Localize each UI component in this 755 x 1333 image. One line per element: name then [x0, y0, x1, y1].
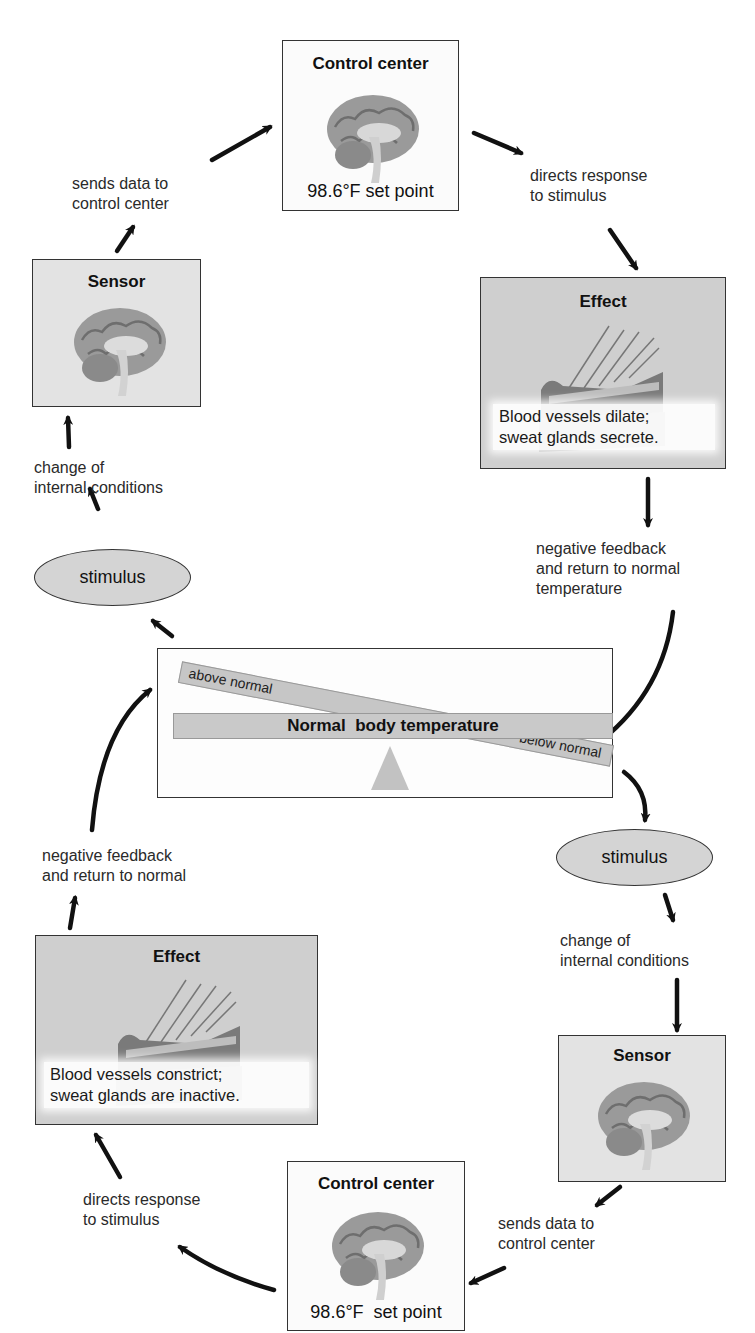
arrow-sensor-to-sends-lower — [597, 1187, 620, 1205]
control-center-box-lower: Control center 98.6°F set point — [287, 1161, 465, 1331]
arrow-effect-to-feedback-lower — [70, 898, 75, 928]
stimulus-ellipse-lower: stimulus — [556, 829, 713, 886]
effect-description-upper: Blood vessels dilate; sweat glands secre… — [493, 404, 715, 450]
sends-caption-upper: sends data to control center — [72, 174, 169, 214]
sensor-box-lower: Sensor — [558, 1035, 726, 1182]
arrow-control-to-directs — [474, 133, 521, 153]
arrow-stimulus-to-change-upper — [153, 621, 172, 636]
directs-caption-lower: directs response to stimulus — [83, 1190, 200, 1230]
brain-icon — [326, 1204, 426, 1304]
arrow-control-to-directs-lower — [180, 1247, 274, 1290]
normal-temperature-label: Normal body temperature — [287, 716, 499, 736]
body-temperature-balance: above normal below normal Normal body te… — [157, 648, 613, 798]
stimulus-ellipse-upper: stimulus — [34, 549, 191, 606]
brain-icon — [321, 87, 421, 187]
above-normal-label: above normal — [188, 665, 274, 697]
effect-title: Effect — [481, 292, 725, 312]
control-center-title: Control center — [283, 54, 458, 74]
control-center-box-upper: Control center 98.6°F set point — [282, 40, 459, 211]
set-point-label: 98.6°F set point — [288, 1302, 464, 1323]
arrow-sensor-to-sends — [117, 227, 133, 251]
arrow-stimulus-to-change-lower — [665, 895, 673, 920]
arrow-directs-to-effect-lower — [96, 1135, 120, 1177]
change-caption-lower: change of internal conditions — [560, 931, 689, 971]
brain-icon — [587, 1074, 697, 1174]
arrow-to-sensor-upper — [68, 418, 69, 447]
arrow-sends-to-control — [212, 127, 270, 160]
control-center-title: Control center — [288, 1174, 464, 1194]
arrow-center-to-stimulus-lower — [624, 772, 645, 820]
arrow-directs-to-effect — [610, 230, 636, 268]
feedback-caption-lower: negative feedback and return to normal — [42, 846, 186, 886]
sensor-title: Sensor — [33, 272, 200, 292]
arrow-feedback-to-center-lower — [92, 690, 150, 830]
effect-title: Effect — [36, 947, 317, 967]
normal-temperature-bar: Normal body temperature — [173, 713, 613, 739]
effect-box-lower: Effect Blood vessels constrict; sweat gl… — [35, 935, 318, 1125]
effect-box-upper: Effect Blood vessels dilate; sweat gland… — [480, 277, 726, 469]
sensor-title: Sensor — [559, 1046, 725, 1066]
set-point-label: 98.6°F set point — [283, 181, 458, 202]
sends-caption-lower: sends data to control center — [498, 1214, 595, 1254]
arrow-sends-to-control-lower — [471, 1268, 504, 1283]
sensor-box-upper: Sensor — [32, 259, 201, 407]
seesaw-fulcrum-icon — [371, 746, 409, 790]
effect-description-lower: Blood vessels constrict; sweat glands ar… — [44, 1062, 309, 1108]
brain-icon — [63, 300, 173, 400]
change-caption-upper: change of internal conditions — [34, 458, 163, 498]
directs-caption-upper: directs response to stimulus — [530, 166, 647, 206]
feedback-caption-upper: negative feedback and return to normal t… — [536, 539, 680, 599]
